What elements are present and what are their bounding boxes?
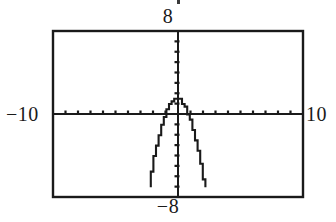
plot-canvas [0,0,336,222]
calculator-graph-figure: 8 −8 −10 10 [0,0,336,222]
